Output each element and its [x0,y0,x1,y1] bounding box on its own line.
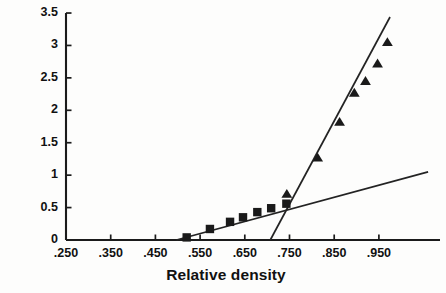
data-point-triangle [382,37,393,46]
data-point-square [267,204,275,212]
y-axis-tick-label: 3.5 [14,5,58,19]
axes [66,13,440,240]
data-markers [182,37,392,241]
tensile-strength-vs-relative-density-chart: 00.511.522.533.5 .250.350.450.550.650.75… [0,0,446,293]
y-axis-tick-label: 2 [14,102,58,116]
data-point-square [253,208,261,216]
x-axis-title: Relative density [66,266,386,284]
data-point-square [182,233,190,241]
y-axis-tick-label: 0 [14,232,58,246]
y-axis-tick-label: 0.5 [14,200,58,214]
x-axis-tick-label: .950 [351,246,407,260]
y-axis-tick-label: 3 [14,37,58,51]
data-point-square [206,225,214,233]
data-point-triangle [360,76,371,85]
data-point-square [226,218,234,226]
data-point-square [239,213,247,221]
data-point-square [282,199,290,207]
y-axis-tick-label: 1.5 [14,135,58,149]
y-axis-tick-label: 2.5 [14,70,58,84]
data-point-triangle [372,59,383,68]
data-point-triangle [281,189,292,198]
y-axis-tick-label: 1 [14,167,58,181]
fit-lines [176,17,428,240]
